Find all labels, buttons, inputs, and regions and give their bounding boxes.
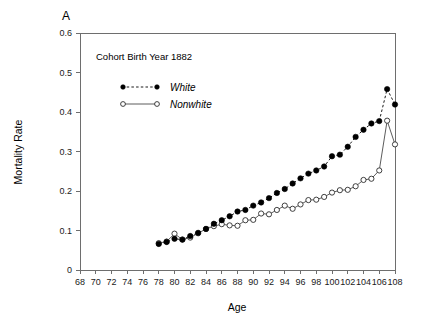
- x-tick-label: 94: [280, 277, 290, 287]
- x-tick-label: 78: [154, 277, 164, 287]
- legend-label-white: White: [170, 82, 196, 93]
- x-tick-label: 84: [201, 277, 211, 287]
- data-point: [329, 190, 334, 195]
- data-point: [274, 190, 279, 195]
- data-point: [361, 127, 366, 132]
- data-point: [337, 188, 342, 193]
- data-point: [345, 187, 350, 192]
- data-point: [259, 211, 264, 216]
- panel-label: A: [62, 9, 70, 23]
- legend-marker-nonwhite-right: [155, 102, 160, 107]
- data-point: [290, 206, 295, 211]
- x-tick-label: 82: [185, 277, 195, 287]
- x-tick-label: 72: [106, 277, 116, 287]
- data-point: [251, 217, 256, 222]
- x-tick-label: 96: [295, 277, 305, 287]
- data-point: [377, 118, 382, 123]
- y-tick-label: 0.5: [59, 68, 72, 78]
- y-tick-label: 0.3: [59, 147, 72, 157]
- data-point: [266, 195, 271, 200]
- data-point: [258, 200, 263, 205]
- data-point: [337, 152, 342, 157]
- data-point: [251, 203, 256, 208]
- y-axis-title: Mortality Rate: [12, 119, 24, 184]
- data-point: [203, 226, 208, 231]
- x-axis-title: Age: [228, 301, 247, 313]
- data-point: [392, 102, 397, 107]
- x-tick-label: 88: [232, 277, 242, 287]
- x-tick-label: 76: [138, 277, 148, 287]
- data-point: [243, 207, 248, 212]
- data-point: [266, 212, 271, 217]
- x-tick-label: 70: [91, 277, 101, 287]
- data-point: [385, 118, 390, 123]
- legend-label-nonwhite: Nonwhite: [170, 99, 212, 110]
- data-point: [298, 202, 303, 207]
- data-point: [353, 134, 358, 139]
- data-point: [282, 186, 287, 191]
- data-point: [243, 218, 248, 223]
- data-point: [384, 86, 389, 91]
- data-point: [322, 194, 327, 199]
- figure-panel-a: A 00.10.20.30.40.50.6 687072747678808284…: [0, 0, 440, 330]
- data-point: [235, 223, 240, 228]
- data-point: [282, 203, 287, 208]
- legend-marker-white-right: [155, 85, 160, 90]
- x-tick-label: 90: [248, 277, 258, 287]
- x-tick-label: 68: [75, 277, 85, 287]
- data-point: [314, 197, 319, 202]
- x-tick-label: 98: [311, 277, 321, 287]
- x-tick-label: 80: [169, 277, 179, 287]
- mortality-rate-chart: A 00.10.20.30.40.50.6 687072747678808284…: [0, 0, 440, 330]
- cohort-annotation: Cohort Birth Year 1882: [96, 51, 192, 62]
- data-point: [227, 223, 232, 228]
- x-tick-label: 92: [264, 277, 274, 287]
- data-point: [227, 214, 232, 219]
- data-point: [345, 144, 350, 149]
- data-point: [274, 207, 279, 212]
- data-point: [321, 164, 326, 169]
- y-tick-label: 0.1: [59, 226, 72, 236]
- data-point: [219, 218, 224, 223]
- x-tick-label: 86: [217, 277, 227, 287]
- data-point: [188, 233, 193, 238]
- y-tick-label: 0.6: [59, 28, 72, 38]
- data-point: [156, 241, 161, 246]
- y-tick-label: 0.2: [59, 186, 72, 196]
- data-point: [172, 236, 177, 241]
- data-point: [361, 177, 366, 182]
- data-point: [195, 230, 200, 235]
- data-point: [369, 176, 374, 181]
- legend-marker-nonwhite-left: [121, 102, 126, 107]
- y-tick-label: 0.4: [59, 107, 72, 117]
- data-point: [353, 184, 358, 189]
- data-point: [306, 171, 311, 176]
- data-point: [314, 168, 319, 173]
- data-point: [290, 181, 295, 186]
- x-tick-label: 100: [324, 277, 339, 287]
- data-point: [369, 121, 374, 126]
- y-tick-label: 0: [67, 265, 72, 275]
- data-point: [306, 197, 311, 202]
- x-tick-label: 108: [387, 277, 402, 287]
- data-point: [172, 231, 177, 236]
- data-point: [180, 237, 185, 242]
- data-point: [329, 154, 334, 159]
- data-point: [392, 142, 397, 147]
- data-point: [211, 221, 216, 226]
- data-point: [164, 239, 169, 244]
- legend-marker-white-left: [121, 85, 126, 90]
- x-tick-label: 74: [122, 277, 132, 287]
- x-tick-label: 106: [372, 277, 387, 287]
- data-point: [235, 209, 240, 214]
- data-point: [377, 168, 382, 173]
- x-tick-label: 104: [356, 277, 371, 287]
- x-tick-label: 102: [340, 277, 355, 287]
- data-point: [298, 176, 303, 181]
